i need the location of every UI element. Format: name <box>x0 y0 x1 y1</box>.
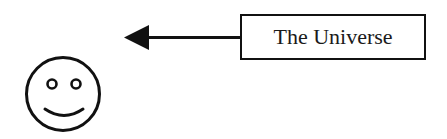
arrowhead-icon <box>124 25 149 50</box>
face-outline <box>27 58 100 131</box>
arrow <box>124 25 241 50</box>
smile-mouth <box>45 109 83 116</box>
right-eye <box>72 80 81 89</box>
smiley-face-icon <box>27 58 100 131</box>
universe-label-box: The Universe <box>240 14 426 60</box>
universe-label: The Universe <box>273 24 392 50</box>
left-eye <box>48 80 57 89</box>
